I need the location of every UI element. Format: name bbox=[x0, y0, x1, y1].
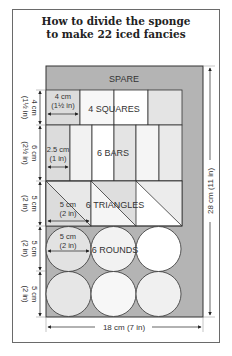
left-dim-3-cm: 5 cm bbox=[30, 195, 39, 211]
left-dim-5-cm: 5 cm bbox=[30, 286, 39, 302]
label-spare: SPARE bbox=[109, 74, 139, 84]
label-squares: 4 SQUARES bbox=[88, 104, 140, 114]
left-dim-4-in: (2 in) bbox=[21, 240, 30, 258]
overall-height-label: 28 cm (11 in) bbox=[206, 168, 215, 214]
overall-width-label: 18 cm (7 in) bbox=[103, 323, 146, 332]
dim-round-cm: 5 cm bbox=[60, 232, 76, 241]
left-dim-2-cm: 6 cm bbox=[30, 145, 39, 161]
label-bars: 6 BARS bbox=[97, 148, 129, 158]
dim-triangle-cm: 5 cm bbox=[60, 200, 76, 209]
left-dim-2-in: (2½ in) bbox=[21, 141, 30, 165]
dim-round-in: (2 in) bbox=[59, 241, 77, 250]
sponge-diagram: SPARE 4 SQUARES 6 BARS 6 TRIANGLES 6 ROU… bbox=[0, 0, 232, 356]
left-dim-5-in: (2 in) bbox=[21, 285, 30, 303]
dim-square-in: (1½ in) bbox=[51, 101, 75, 110]
dim-triangle-in: (2 in) bbox=[59, 209, 77, 218]
left-dim-4-cm: 5 cm bbox=[30, 240, 39, 256]
dim-bar-cm: 2.5 cm bbox=[47, 145, 70, 154]
dim-square-cm: 4 cm bbox=[55, 92, 71, 101]
dim-bar-in: (1 in) bbox=[49, 154, 67, 163]
label-triangles: 6 TRIANGLES bbox=[86, 200, 144, 210]
label-rounds: 6 ROUNDS bbox=[92, 245, 139, 255]
left-dim-3-in: (2 in) bbox=[21, 195, 30, 213]
left-dim-1-cm: 4 cm bbox=[30, 99, 39, 115]
left-dim-1-in: (1½ in) bbox=[21, 96, 30, 120]
